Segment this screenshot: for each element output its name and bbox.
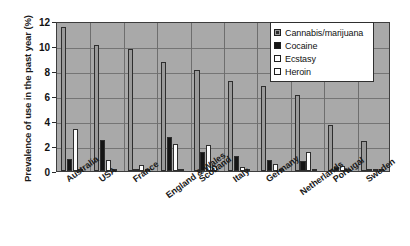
bar (300, 161, 305, 171)
bar (261, 86, 266, 171)
bar (200, 152, 205, 171)
bar (340, 166, 345, 171)
bar (345, 169, 350, 171)
bar (194, 70, 199, 171)
bar-group (90, 23, 123, 171)
bar-group (157, 23, 190, 171)
y-axis-tick-label: 4 (6, 117, 50, 128)
bar (61, 27, 66, 171)
bar (267, 160, 272, 171)
legend-item: Ecstasy (274, 52, 369, 65)
legend-item: Cocaine (274, 39, 369, 52)
y-axis-tick-label: 8 (6, 67, 50, 78)
bar (273, 164, 278, 172)
bar-group (191, 23, 224, 171)
y-axis-tick-label: 6 (6, 92, 50, 103)
bar (133, 169, 138, 172)
legend-swatch-icon (274, 55, 281, 62)
bar (100, 140, 105, 171)
legend-item: Heroin (274, 65, 369, 78)
bar (67, 159, 72, 172)
bar (306, 152, 311, 171)
y-axis-tick-label: 10 (6, 42, 50, 53)
bar (178, 169, 183, 172)
bar (212, 166, 217, 171)
legend-item: Cannabis/marijuana (274, 26, 369, 39)
bar (295, 95, 300, 171)
legend-swatch-icon (274, 68, 281, 75)
bar (373, 169, 378, 171)
bar (328, 125, 333, 171)
bar-group (224, 23, 257, 171)
bar (245, 169, 250, 171)
legend-label: Ecstasy (285, 54, 316, 64)
bar (206, 145, 211, 171)
legend-label: Cocaine (285, 41, 317, 51)
bar (379, 169, 384, 171)
y-axis-tick-label: 12 (6, 17, 50, 28)
bar (73, 129, 78, 172)
bar (228, 81, 233, 171)
y-axis-tick (52, 172, 56, 173)
legend-label: Heroin (285, 67, 311, 77)
bar (334, 167, 339, 171)
legend-swatch-icon (274, 42, 281, 49)
bar (361, 141, 366, 171)
bar-group (57, 23, 90, 171)
bar-group (124, 23, 157, 171)
bar (145, 169, 150, 171)
bar (167, 137, 172, 171)
bar-chart: Prevalence of use in the past year (%) 0… (0, 0, 410, 246)
y-axis-labels: 024681012 (0, 0, 50, 246)
bar (78, 169, 83, 172)
bar (128, 49, 133, 172)
bar (240, 167, 245, 171)
chart-legend: Cannabis/marijuanaCocaineEcstasyHeroin (270, 22, 374, 82)
legend-swatch-icon (274, 29, 281, 36)
bar (139, 165, 144, 171)
bar (367, 169, 372, 172)
bar (279, 169, 284, 171)
bar (112, 169, 117, 172)
y-axis-tick-label: 2 (6, 142, 50, 153)
bar (94, 45, 99, 171)
y-axis-tick-label: 0 (6, 167, 50, 178)
legend-label: Cannabis/marijuana (285, 28, 363, 38)
bar (312, 169, 317, 171)
bar (173, 144, 178, 172)
bar (161, 62, 166, 171)
bar (234, 156, 239, 171)
bar (106, 160, 111, 171)
